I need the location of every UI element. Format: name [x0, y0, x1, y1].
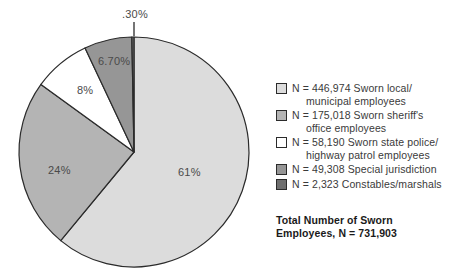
legend-item-label: N = 49,308 Special jurisdiction — [292, 163, 437, 176]
legend-item-line1: N = 58,190 Sworn state police/ — [292, 136, 438, 148]
legend-item-line1: N = 49,308 Special jurisdiction — [292, 163, 437, 175]
legend-swatch-icon — [276, 164, 287, 175]
legend-item-label: N = 58,190 Sworn state police/highway pa… — [292, 136, 438, 161]
legend-swatch-icon — [276, 137, 287, 148]
legend-item[interactable]: N = 49,308 Special jurisdiction — [276, 163, 472, 176]
legend-item-line2: office employees — [292, 122, 423, 135]
legend-item[interactable]: N = 175,018 Sworn sheriff'soffice employ… — [276, 109, 472, 134]
legend-item-line2: municipal employees — [292, 95, 412, 108]
legend-item[interactable]: N = 2,323 Constables/marshals — [276, 178, 472, 191]
legend-item-line1: N = 2,323 Constables/marshals — [292, 178, 442, 190]
legend-total-line1: Total Number of Sworn — [276, 214, 472, 227]
legend-total-line2: Employees, N = 731,903 — [276, 227, 472, 240]
chart-legend: N = 446,974 Sworn local/municipal employ… — [276, 82, 472, 192]
legend-item-label: N = 175,018 Sworn sheriff'soffice employ… — [292, 109, 423, 134]
legend-item-line2: highway patrol employees — [292, 149, 438, 162]
legend-item[interactable]: N = 58,190 Sworn state police/highway pa… — [276, 136, 472, 161]
legend-swatch-icon — [276, 83, 287, 94]
legend-item-line1: N = 175,018 Sworn sheriff's — [292, 109, 423, 121]
pie-chart-figure: 61% 24% 8% 6.70% .30% N = 446,974 Sworn … — [0, 0, 474, 276]
legend-swatch-icon — [276, 179, 287, 190]
pie-chart-plot-area: 61% 24% 8% 6.70% .30% — [0, 0, 268, 276]
legend-total-block: Total Number of Sworn Employees, N = 731… — [276, 214, 472, 240]
legend-item-line1: N = 446,974 Sworn local/ — [292, 82, 412, 94]
pie-chart-svg — [0, 0, 268, 276]
legend-swatch-icon — [276, 110, 287, 121]
legend-item-label: N = 2,323 Constables/marshals — [292, 178, 442, 191]
pie-slices-group — [19, 37, 249, 267]
legend-item[interactable]: N = 446,974 Sworn local/municipal employ… — [276, 82, 472, 107]
legend-item-label: N = 446,974 Sworn local/municipal employ… — [292, 82, 412, 107]
